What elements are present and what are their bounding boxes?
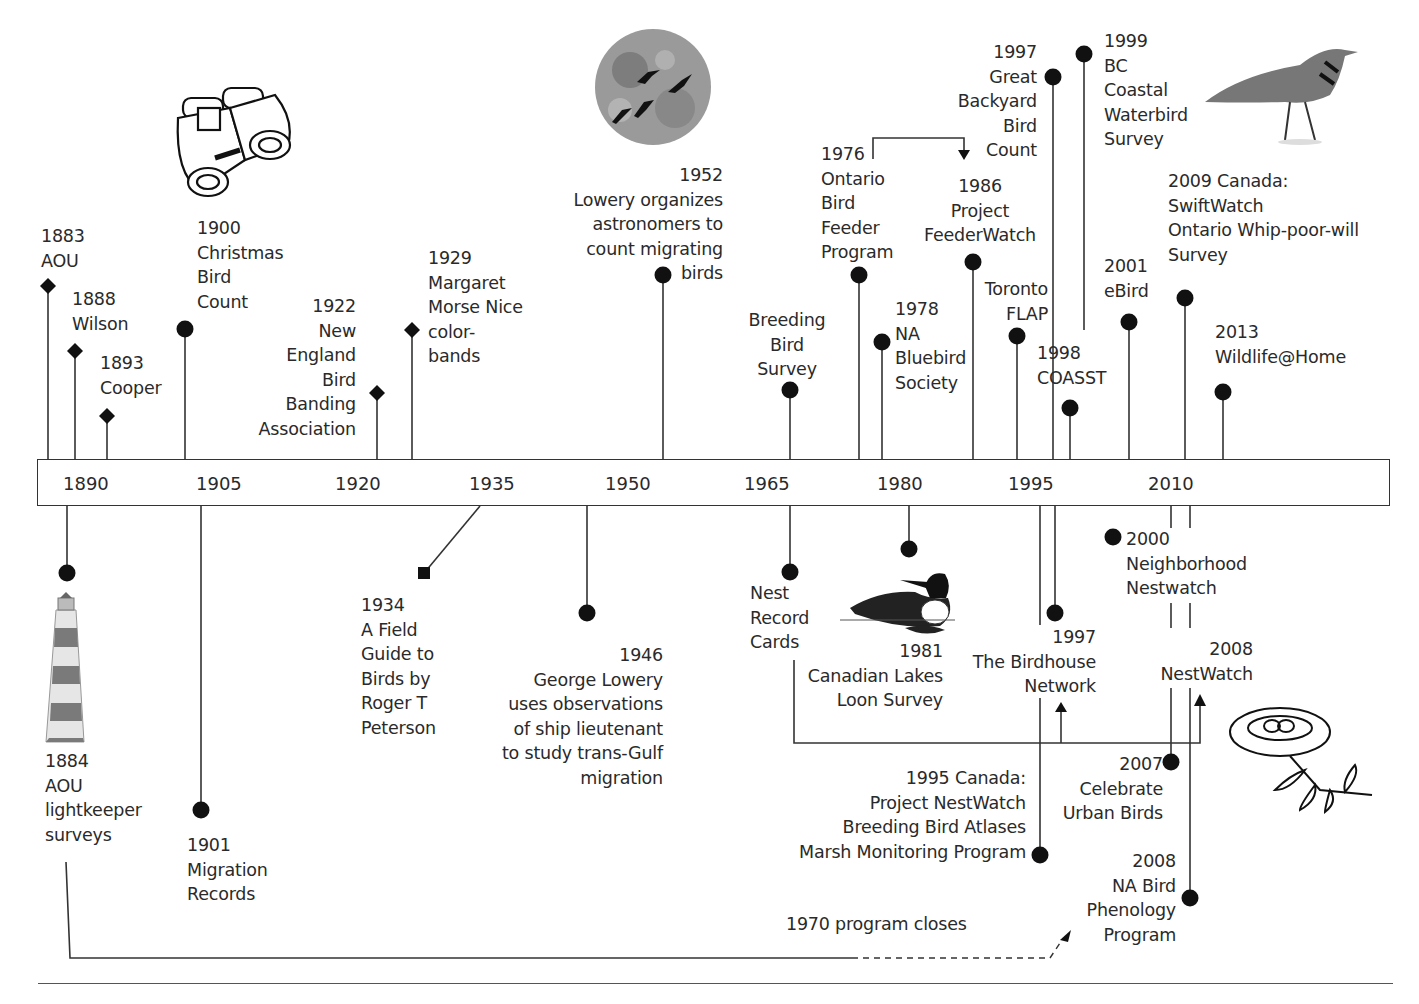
timeline-diagram: 1890 1905 1920 1935 1950 1965 1980 1995 … [0,0,1419,1004]
event-1929-margaret-morse-nice: 1929 Margaret Morse Nice color- bands [428,246,523,369]
event-2007-celebrate-urban-birds: 2007 Celebrate Urban Birds [1050,752,1163,826]
event-2009-canada-swiftwatch: 2009 Canada: SwiftWatch Ontario Whip-poo… [1168,169,1359,267]
event-1981-canadian-lakes-loon: 1981 Canadian Lakes Loon Survey [800,639,943,713]
event-1986-project-feederwatch: 1986 Project FeederWatch [920,174,1040,248]
event-2008-na-bird-phenology: 2008 NA Bird Phenology Program [1070,849,1176,947]
event-1934-field-guide: 1934 A Field Guide to Birds by Roger T P… [361,593,436,741]
event-2013-wildlife-at-home: 2013 Wildlife@Home [1215,320,1346,369]
event-1998-coasst: 1998 COASST [1037,341,1106,390]
event-1976-ontario-bird-feeder: 1976 Ontario Bird Feeder Program [821,142,893,265]
event-2001-ebird: 2001 eBird [1104,254,1149,303]
event-1893-cooper: 1893 Cooper [100,351,162,400]
event-2008-nestwatch: 2008 NestWatch [1140,637,1253,686]
event-1901-migration-records: 1901 Migration Records [187,833,268,907]
annotation-1970-program-closes: 1970 program closes [786,912,967,937]
event-1952-lowery-astronomers: 1952 Lowery organizes astronomers to cou… [540,163,723,286]
event-1997-birdhouse-network: 1997 The Birdhouse Network [960,625,1096,699]
event-1946-george-lowery: 1946 George Lowery uses observations of … [470,643,663,791]
event-1995-canada-nestwatch: 1995 Canada: Project NestWatch Breeding … [770,766,1026,864]
bottom-rule [38,983,1393,984]
event-breeding-bird-survey: Breeding Bird Survey [740,308,834,382]
event-1888-wilson: 1888 Wilson [72,287,128,336]
event-1999-bc-coastal-waterbird: 1999 BC Coastal Waterbird Survey [1104,29,1188,152]
event-1922-new-england-bird-banding: 1922 New England Bird Banding Associatio… [240,294,356,442]
event-1884-aou-lightkeeper: 1884 AOU lightkeeper surveys [45,749,142,847]
event-2000-neighborhood-nestwatch: 2000 Neighborhood Nestwatch [1126,527,1247,601]
event-toronto-flap: Toronto FLAP [960,277,1048,326]
nest-icon [1230,708,1372,812]
loon-icon [840,573,955,633]
binoculars-icon [178,88,290,196]
event-1978-na-bluebird-society: 1978 NA Bluebird Society [895,297,966,395]
event-1997-great-backyard-bird-count: 1997 Great Backyard Bird Count [930,40,1037,163]
lighthouse-icon [46,592,84,742]
killdeer-bird-icon [1205,49,1358,145]
moon-with-geese-icon [595,29,711,145]
event-1883-aou: 1883 AOU [41,224,85,273]
